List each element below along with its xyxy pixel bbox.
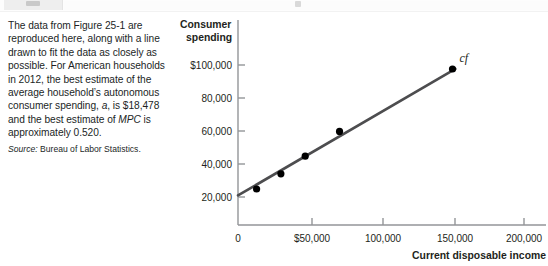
consumption-function-chart: Consumer spending $100,000 80,000 60,000… (176, 14, 548, 266)
page-marker-icon (295, 1, 301, 7)
x-tick-label: 150,000 (437, 233, 474, 244)
caption-line: The data from Figure 25-1 are (8, 19, 176, 32)
x-tick-label: 100,000 (365, 233, 402, 244)
caption-line: approximately 0.520. (8, 126, 176, 139)
fit-line (238, 69, 455, 195)
x-tick-label: 200,000 (506, 233, 543, 244)
caption-line: and the best estimate of MPC is (8, 113, 176, 126)
x-tick-label: $50,000 (294, 233, 331, 244)
browser-tab[interactable] (4, 0, 63, 10)
caption-line: average household’s autonomous (8, 86, 176, 99)
data-point (277, 170, 284, 177)
chart-canvas: Consumer spending $100,000 80,000 60,000… (176, 14, 548, 266)
y-tick-label: 60,000 (201, 126, 232, 137)
y-tick-label: $100,000 (190, 60, 232, 71)
y-axis-title-line2: spending (186, 32, 232, 43)
y-axis-ticks: $100,000 80,000 60,000 40,000 20,000 (190, 60, 245, 203)
source-text: Bureau of Labor Statistics. (40, 144, 141, 154)
source-note: Source: Bureau of Labor Statistics. (8, 144, 176, 155)
y-axis-title-line1: Consumer (180, 19, 231, 30)
app-chrome-strip (0, 0, 548, 12)
x-tick-label: 0 (235, 233, 241, 244)
caption-segment: is (141, 114, 151, 125)
chrome-toolbar-field[interactable] (64, 1, 548, 10)
data-point (302, 153, 309, 160)
x-axis-title: Current disposable income (412, 250, 546, 261)
caption-line: possible. For American households (8, 59, 176, 72)
caption-line: in 2012, the best estimate of the (8, 73, 176, 86)
caption-line: drawn to fit the data as closely as (8, 46, 176, 59)
caption-line: consumer spending, a, is $18,478 (8, 99, 176, 112)
caption-segment: and the best estimate of (8, 114, 118, 125)
data-point (253, 185, 260, 192)
y-tick-label: 20,000 (201, 192, 232, 203)
data-point (449, 65, 456, 72)
series-label-cf: cf (460, 51, 470, 65)
caption-segment: , is $18,478 (107, 100, 159, 111)
x-axis-ticks: 0 $50,000 100,000 150,000 200,000 (235, 218, 542, 244)
data-point (336, 128, 343, 135)
caption-segment: consumer spending, (8, 100, 102, 111)
variable-mpc: MPC (118, 114, 141, 125)
y-tick-label: 80,000 (201, 93, 232, 104)
y-tick-label: 40,000 (201, 159, 232, 170)
source-label: Source: (8, 144, 38, 154)
tab-thumbnail-icon (26, 1, 40, 6)
caption-text-panel: The data from Figure 25-1 are reproduced… (8, 19, 176, 155)
caption-line: reproduced here, along with a line (8, 32, 176, 45)
